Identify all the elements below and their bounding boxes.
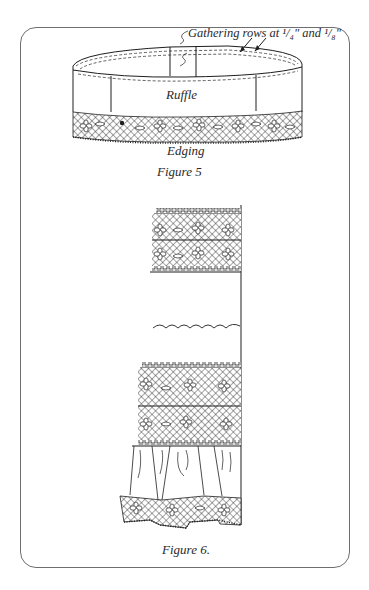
figure6-strips-drawing (120, 205, 241, 528)
edging-label: Edging (167, 143, 205, 159)
figure6-caption: Figure 6. (162, 542, 210, 558)
gathering-rows-callout: Gathering rows at ¹/₄" and ¹/₈" (188, 26, 341, 41)
figure5-caption: Figure 5 (157, 164, 202, 180)
ruffle-label: Ruffle (166, 87, 197, 103)
